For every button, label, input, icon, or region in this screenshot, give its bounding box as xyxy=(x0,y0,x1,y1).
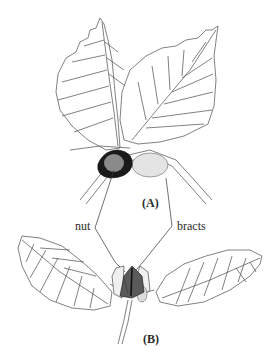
leaf-a-left xyxy=(56,18,128,150)
leaf-b-left xyxy=(18,236,112,310)
bracts-a xyxy=(132,153,168,177)
callout-label-nut: nut xyxy=(75,220,90,232)
leaf-b-right xyxy=(156,250,262,306)
leaf-a-right xyxy=(120,26,218,144)
panel-label-b: (B) xyxy=(143,333,159,345)
callout-lines xyxy=(95,170,172,272)
nut-a xyxy=(98,150,132,178)
callout-label-bracts: bracts xyxy=(177,220,206,232)
beech-fruit-illustration xyxy=(0,0,279,358)
panel-label-a: (A) xyxy=(142,197,159,209)
